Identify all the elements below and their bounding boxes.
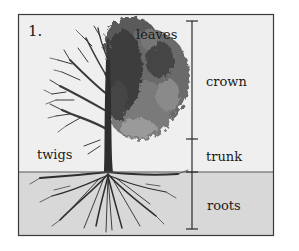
label-twigs: twigs: [37, 148, 73, 161]
label-leaves: leaves: [136, 28, 177, 41]
figure-number: 1.: [28, 24, 42, 39]
label-crown: crown: [206, 75, 247, 88]
label-roots: roots: [207, 199, 241, 212]
tree-parts-diagram: 1. leaves twigs crown trunk roots: [0, 0, 299, 251]
label-trunk: trunk: [206, 150, 242, 163]
